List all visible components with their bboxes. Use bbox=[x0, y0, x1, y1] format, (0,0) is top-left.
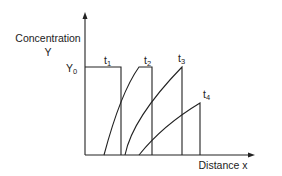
profile-t3 bbox=[125, 67, 182, 155]
y-axis-arrow bbox=[83, 12, 88, 19]
x-axis-label: Distance x bbox=[198, 159, 248, 171]
t2-label: t2 bbox=[144, 54, 151, 68]
concentration-distance-diagram: Concentration Y Y0 t1 t2 t3 t4 Distance … bbox=[0, 0, 282, 176]
profile-t1 bbox=[85, 67, 121, 155]
profile-t4 bbox=[139, 103, 200, 155]
y0-label: Y0 bbox=[66, 62, 77, 76]
t1-label: t1 bbox=[104, 54, 111, 68]
y-axis-label-symbol: Y bbox=[44, 46, 51, 58]
t3-label: t3 bbox=[178, 52, 185, 66]
x-axis-arrow bbox=[248, 153, 255, 158]
t4-label: t4 bbox=[203, 88, 210, 102]
y-axis-label: Concentration bbox=[15, 32, 81, 44]
